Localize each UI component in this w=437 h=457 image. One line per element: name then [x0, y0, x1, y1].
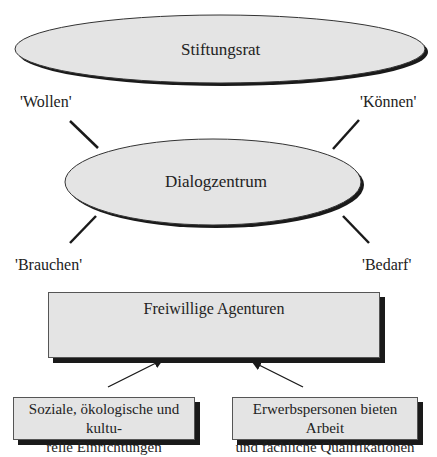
connector-bedarf [343, 216, 369, 243]
freiwillige-agenturen-box: Freiwillige Agenturen [48, 292, 380, 358]
relation-wollen: 'Wollen' [20, 93, 72, 111]
relation-brauchen: 'Brauchen' [15, 256, 82, 274]
arrow-left [108, 360, 162, 387]
source-line-1: Erwerbspersonen bieten Arbeit [233, 398, 417, 438]
connector-wollen [70, 121, 98, 148]
stiftungsrat-label: Stiftungsrat [181, 40, 260, 60]
arrow-right [253, 362, 303, 387]
source-box-einrichtungen: Soziale, ökologische und kultu- relle Ei… [13, 397, 195, 440]
dialogzentrum-label: Dialogzentrum [165, 172, 267, 192]
source-line-2: relle Einrichtungen [14, 438, 194, 457]
relation-bedarf: 'Bedarf' [362, 256, 411, 274]
relation-koennen: 'Können' [360, 93, 416, 111]
connector-koennen [333, 120, 359, 149]
freiwillige-agenturen-label: Freiwillige Agenturen [49, 293, 379, 318]
source-line-2: und fachliche Qualifikationen [233, 438, 417, 457]
source-line-1: Soziale, ökologische und kultu- [14, 398, 194, 438]
connector-brauchen [70, 216, 96, 243]
source-box-erwerbspersonen: Erwerbspersonen bieten Arbeit und fachli… [232, 397, 418, 440]
